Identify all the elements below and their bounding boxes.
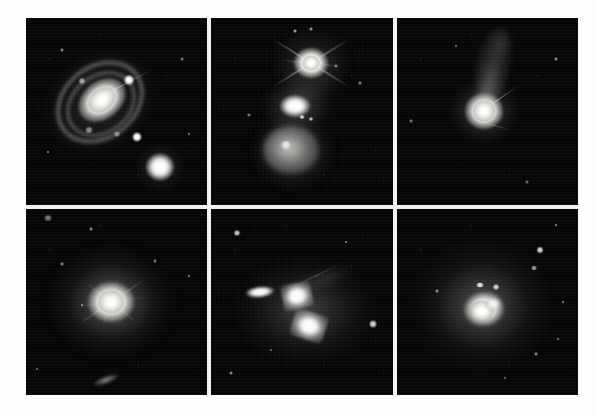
panel-bottom-right[interactable] bbox=[397, 209, 578, 396]
panel-top-left[interactable] bbox=[26, 18, 207, 205]
panel-bottom-middle[interactable] bbox=[211, 209, 392, 396]
sky-grain bbox=[26, 209, 207, 396]
panel-top-right[interactable] bbox=[397, 18, 578, 205]
astronomy-figure bbox=[0, 0, 597, 415]
sky-grain bbox=[211, 18, 392, 205]
sky-grain bbox=[397, 209, 578, 396]
sky-grain bbox=[211, 209, 392, 396]
panel-bottom-left[interactable] bbox=[26, 209, 207, 396]
image-montage-grid bbox=[26, 18, 578, 395]
panel-top-middle[interactable] bbox=[211, 18, 392, 205]
sky-grain bbox=[397, 18, 578, 205]
sky-grain bbox=[26, 18, 207, 205]
